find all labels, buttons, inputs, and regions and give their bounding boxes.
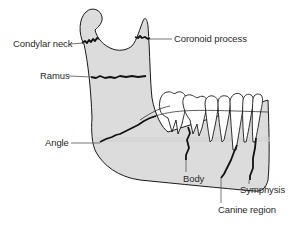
- label-condylar-neck: Condylar neck: [13, 39, 72, 49]
- label-angle: Angle: [45, 138, 69, 148]
- leader-ramus: [69, 76, 92, 77]
- label-body: Body: [183, 174, 204, 184]
- label-coronoid-process: Coronoid process: [174, 34, 247, 44]
- label-symphysis: Symphysis: [240, 185, 285, 195]
- label-canine-region: Canine region: [218, 205, 276, 215]
- label-ramus: Ramus: [40, 71, 70, 81]
